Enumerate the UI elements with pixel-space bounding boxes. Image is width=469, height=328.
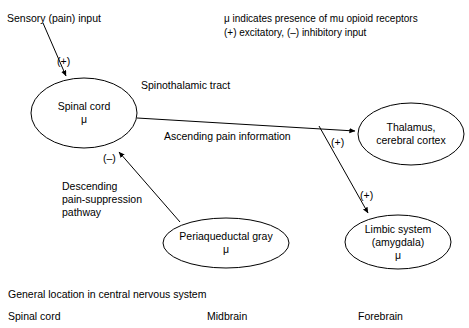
footer-region-midbrain: Midbrain: [207, 310, 247, 322]
pain-pathway-diagram: μ indicates presence of mu opioid recept…: [0, 0, 469, 328]
spinothalamic-tract-label: Spinothalamic tract: [141, 79, 230, 93]
footer-caption: General location in central nervous syst…: [8, 288, 206, 300]
descending-pathway-arrow: [119, 152, 180, 222]
descending-pathway-line-3: pathway: [62, 206, 101, 220]
legend-line-1: μ indicates presence of mu opioid recept…: [224, 13, 418, 24]
sensory-plus-sign: (+): [57, 55, 70, 67]
sensory-input-arrow: [43, 23, 66, 76]
ascending-pain-information-label: Ascending pain information: [164, 130, 291, 144]
periaqueductal-gray-ellipse: [163, 218, 289, 268]
footer-region-forebrain: Forebrain: [358, 310, 403, 322]
legend-line-2: (+) excitatory, (–) inhibitory input: [224, 27, 366, 38]
thalamus-plus-sign: (+): [331, 136, 344, 148]
sensory-input-label: Sensory (pain) input: [7, 12, 101, 26]
footer-region-spinal-cord: Spinal cord: [8, 310, 61, 322]
descending-pathway-line-2: pain-suppression: [62, 193, 142, 207]
descending-minus-sign: (–): [103, 152, 116, 164]
descending-pathway-line-1: Descending: [62, 180, 117, 194]
spinal-cord-ellipse: [31, 78, 137, 148]
limbic-system-ellipse: [345, 215, 451, 269]
thalamus-ellipse: [358, 103, 464, 165]
diagram-canvas: [0, 0, 469, 328]
limbic-plus-sign: (+): [360, 189, 373, 201]
